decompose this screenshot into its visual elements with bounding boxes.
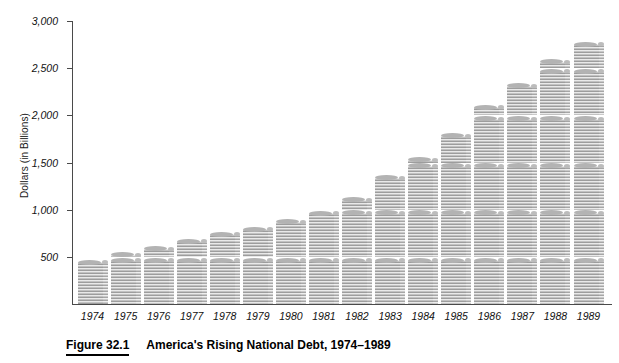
coin-segment bbox=[342, 200, 372, 210]
coin-stack-sliver bbox=[499, 166, 504, 210]
figure-caption: Figure 32.1America's Rising National Deb… bbox=[66, 338, 391, 356]
coin-segment bbox=[144, 260, 174, 304]
coin-segment bbox=[375, 213, 405, 257]
y-tick-1000: 1,000 bbox=[67, 210, 73, 211]
coin-segment bbox=[574, 166, 604, 210]
coin-stack-sliver bbox=[599, 44, 604, 68]
coin-stack-sliver bbox=[367, 213, 372, 257]
coin-stack-sliver bbox=[599, 166, 604, 210]
coin-stack-sliver bbox=[202, 241, 207, 256]
plot-area: 5001,0001,5002,0002,5003,000 19741975197… bbox=[72, 21, 612, 304]
coin-stack-sliver bbox=[499, 260, 504, 304]
coin-stack-sliver bbox=[532, 119, 537, 163]
coin-segment bbox=[111, 260, 141, 304]
coin-stack-sliver bbox=[433, 260, 438, 304]
coin-segment bbox=[441, 260, 471, 304]
coin-segment bbox=[474, 119, 504, 163]
coin-stack-sliver bbox=[599, 213, 604, 257]
coin-stack-sliver bbox=[466, 136, 471, 163]
coin-segment bbox=[177, 241, 207, 256]
y-axis-title: Dollars (in Billions) bbox=[19, 91, 30, 221]
coin-segment bbox=[342, 260, 372, 304]
coin-stack-sliver bbox=[499, 119, 504, 163]
coin-segment bbox=[474, 166, 504, 210]
bar-1975 bbox=[111, 254, 141, 304]
coin-stack-sliver bbox=[599, 71, 604, 115]
bar-1982 bbox=[342, 197, 372, 304]
coin-stack bbox=[507, 83, 537, 304]
coin-stack-sliver bbox=[136, 255, 141, 257]
figure-number: Figure 32.1 bbox=[66, 338, 129, 356]
y-tick-label-500: 500 bbox=[40, 251, 58, 263]
coin-stack-sliver bbox=[532, 260, 537, 304]
coin-stack-sliver bbox=[334, 260, 339, 304]
y-tick-label-1500: 1,500 bbox=[32, 157, 58, 169]
coin-stack-sliver bbox=[433, 213, 438, 257]
coin-segment bbox=[474, 107, 504, 115]
coin-segment bbox=[408, 160, 438, 163]
figure-caption-title: America's Rising National Debt, 1974–198… bbox=[146, 338, 390, 352]
coin-segment bbox=[177, 260, 207, 304]
coin-stack bbox=[474, 104, 504, 304]
coin-segment bbox=[243, 229, 273, 257]
coin-segment bbox=[441, 213, 471, 257]
coin-segment bbox=[78, 262, 108, 304]
coin-segment bbox=[474, 260, 504, 304]
bar-1984 bbox=[408, 156, 438, 304]
y-tick-label-2500: 2,500 bbox=[32, 62, 58, 74]
coin-segment bbox=[507, 213, 537, 257]
coin-stack-sliver bbox=[268, 229, 273, 257]
coin-stack-sliver bbox=[565, 213, 570, 257]
coin-segment bbox=[574, 260, 604, 304]
coin-segment bbox=[540, 62, 570, 68]
coin-segment bbox=[574, 213, 604, 257]
coin-segment bbox=[276, 260, 306, 304]
bar-1983 bbox=[375, 175, 405, 304]
bar-1981 bbox=[309, 210, 339, 304]
coin-stack bbox=[144, 246, 174, 304]
y-tick-label-1000: 1,000 bbox=[32, 204, 58, 216]
coin-segment bbox=[408, 166, 438, 210]
coin-segment bbox=[309, 260, 339, 304]
coin-segment bbox=[540, 213, 570, 257]
y-tick-2000: 2,000 bbox=[67, 115, 73, 116]
coin-stack bbox=[243, 226, 273, 304]
coin-stack bbox=[177, 238, 207, 304]
coin-segment bbox=[144, 249, 174, 257]
coin-stack-sliver bbox=[532, 86, 537, 115]
coin-segment bbox=[474, 213, 504, 257]
y-tick-500: 500 bbox=[67, 257, 73, 258]
bar-1986 bbox=[474, 104, 504, 304]
bar-1980 bbox=[276, 218, 306, 304]
bar-1988 bbox=[540, 59, 570, 304]
coin-stack-sliver bbox=[433, 160, 438, 163]
coin-segment bbox=[243, 260, 273, 304]
coin-segment bbox=[507, 119, 537, 163]
coin-stack-sliver bbox=[202, 260, 207, 304]
coin-stack-sliver bbox=[466, 260, 471, 304]
y-tick-label-2000: 2,000 bbox=[32, 109, 58, 121]
coin-stack-sliver bbox=[235, 260, 240, 304]
coin-stack-sliver bbox=[466, 166, 471, 210]
coin-segment bbox=[111, 255, 141, 257]
coin-stack-sliver bbox=[565, 71, 570, 115]
bar-1987 bbox=[507, 83, 537, 304]
coin-stack bbox=[78, 259, 108, 304]
coin-segment bbox=[210, 234, 240, 256]
coin-segment bbox=[540, 166, 570, 210]
y-tick-2500: 2,500 bbox=[67, 68, 73, 69]
coin-stack-sliver bbox=[235, 234, 240, 256]
coin-stack-sliver bbox=[169, 249, 174, 257]
coin-stack-sliver bbox=[433, 166, 438, 210]
coin-stack bbox=[111, 254, 141, 304]
coin-stack-sliver bbox=[169, 260, 174, 304]
y-tick-label-3000: 3,000 bbox=[32, 15, 58, 27]
coin-segment bbox=[540, 260, 570, 304]
coin-segment bbox=[574, 44, 604, 68]
coin-stack-sliver bbox=[301, 222, 306, 257]
coin-stack-sliver bbox=[400, 213, 405, 257]
coin-stack-sliver bbox=[599, 119, 604, 163]
coin-stack-sliver bbox=[301, 260, 306, 304]
bar-1978 bbox=[210, 231, 240, 304]
coin-stack-sliver bbox=[400, 178, 405, 210]
